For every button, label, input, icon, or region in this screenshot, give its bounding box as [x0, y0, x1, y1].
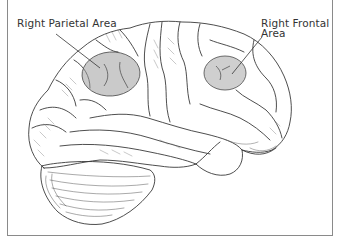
parietal-highlight	[81, 50, 142, 98]
cerebellum-outline	[41, 161, 155, 224]
frontal-highlight	[204, 56, 246, 90]
lateral-fissure	[90, 114, 242, 150]
label-parietal-text: Right Parietal Area	[17, 17, 117, 29]
label-frontal-line2: Area	[261, 28, 329, 38]
brain-diagram: Right Parietal Area Right Frontal Area	[0, 0, 342, 244]
label-right-frontal-area: Right Frontal Area	[261, 18, 329, 38]
label-right-parietal-area: Right Parietal Area	[17, 18, 117, 28]
frontal-leader-line	[232, 37, 262, 74]
